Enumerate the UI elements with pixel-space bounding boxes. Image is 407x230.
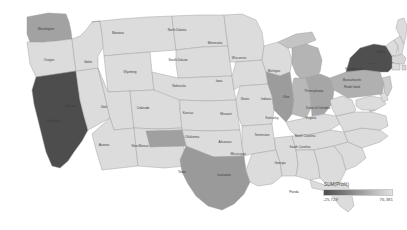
state-pennsylvania[interactable] [330,70,384,98]
state-south-dakota[interactable] [176,46,232,78]
state-oklahoma-panhandle[interactable] [146,130,186,147]
legend-gradient-bar[interactable] [323,189,393,196]
state-montana[interactable] [92,16,176,56]
state-kansas[interactable] [180,100,240,131]
color-legend[interactable]: SUM(Profit) -25,729 76,381 [323,182,395,202]
state-washington[interactable] [27,13,72,42]
state-louisiana[interactable] [246,150,282,186]
state-oregon[interactable] [27,39,76,77]
state-connecticut[interactable] [392,63,400,70]
legend-min-value: -25,729 [323,197,338,202]
choropleth-map-visualization[interactable]: Washington Oregon Idaho Montana Wyoming … [0,0,407,230]
legend-title: SUM(Profit) [324,182,395,187]
state-rhode-island[interactable] [402,65,406,70]
state-idaho[interactable] [72,21,104,71]
legend-max-value: 76,381 [380,197,393,202]
state-missouri[interactable] [236,84,274,126]
state-new-york[interactable] [346,44,394,72]
state-minnesota[interactable] [224,14,264,62]
state-wyoming[interactable] [104,52,154,92]
legend-scale-labels: -25,729 76,381 [323,197,393,202]
label-florida: Florida [289,190,299,194]
state-north-dakota[interactable] [172,15,228,50]
